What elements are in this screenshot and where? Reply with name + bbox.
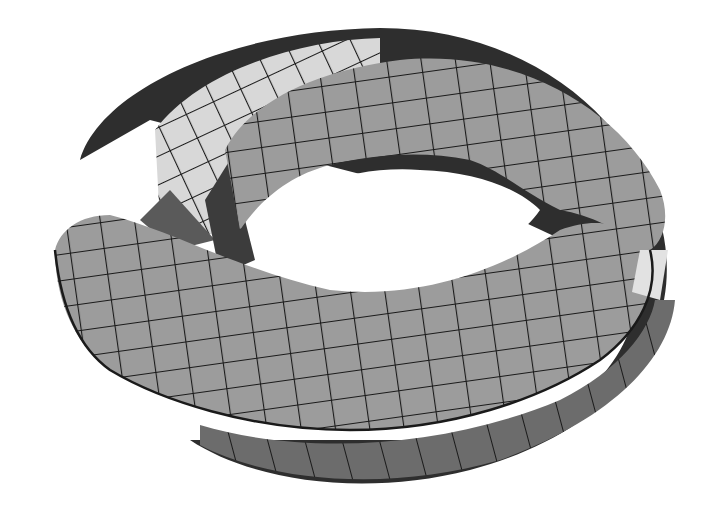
band-inner-hole [250,169,540,278]
mobius-strip-illustration [0,0,722,509]
mobius-strip-figure [0,0,722,509]
